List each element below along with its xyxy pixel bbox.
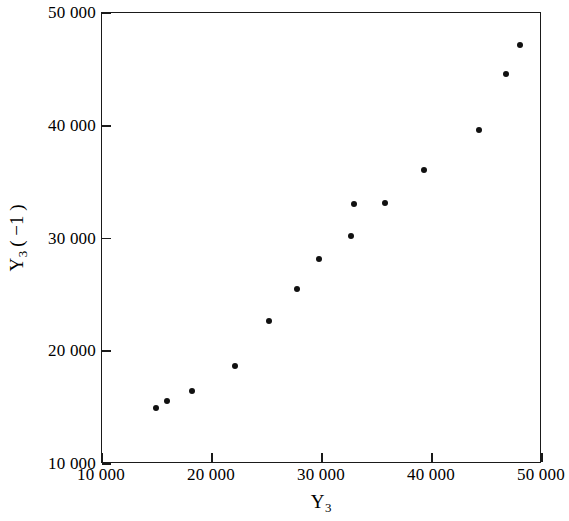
y-axis-title: Y3( −1 )	[7, 204, 30, 271]
x-axis-title-subscript: 3	[324, 500, 331, 515]
y-axis-tick	[102, 12, 111, 14]
x-axis-tick	[431, 453, 433, 462]
x-axis-tick-label: 50 000	[517, 466, 565, 483]
data-point	[351, 201, 357, 207]
x-axis-tick-label: 30 000	[297, 466, 345, 483]
data-point	[294, 286, 300, 292]
x-axis-tick	[211, 453, 213, 462]
scatter-plot-figure: 10 00020 00030 00040 00050 00010 00020 0…	[0, 0, 569, 521]
y-axis-tick	[102, 125, 111, 127]
data-point	[189, 388, 195, 394]
data-point	[266, 318, 272, 324]
y-axis-tick-label: 20 000	[48, 342, 96, 359]
y-axis-tick-label: 30 000	[48, 229, 96, 246]
y-axis-title-paren: ( −1 )	[6, 204, 27, 250]
data-point	[382, 200, 388, 206]
y-axis-title-subscript: 3	[14, 251, 29, 258]
data-point	[164, 398, 170, 404]
y-axis-tick	[102, 350, 111, 352]
y-axis-tick	[102, 238, 111, 240]
y-axis-tick-label: 50 000	[48, 4, 96, 21]
plot-area	[101, 12, 541, 463]
x-axis-tick-label: 20 000	[187, 466, 235, 483]
data-point	[348, 233, 354, 239]
x-axis-tick-label: 40 000	[407, 466, 455, 483]
y-axis-tick-label: 40 000	[48, 116, 96, 133]
y-axis-title-base: Y	[6, 258, 27, 272]
data-point	[503, 71, 509, 77]
x-axis-tick	[321, 453, 323, 462]
x-axis-title-base: Y	[311, 491, 325, 512]
data-point	[421, 167, 427, 173]
data-point	[153, 405, 159, 411]
data-point	[517, 42, 523, 48]
data-point	[316, 256, 322, 262]
data-point	[232, 363, 238, 369]
x-axis-title: Y3	[311, 492, 332, 515]
y-axis-tick-label: 10 000	[48, 455, 96, 472]
x-axis-tick	[541, 453, 543, 462]
data-point	[476, 127, 482, 133]
x-axis-tick	[101, 453, 103, 462]
